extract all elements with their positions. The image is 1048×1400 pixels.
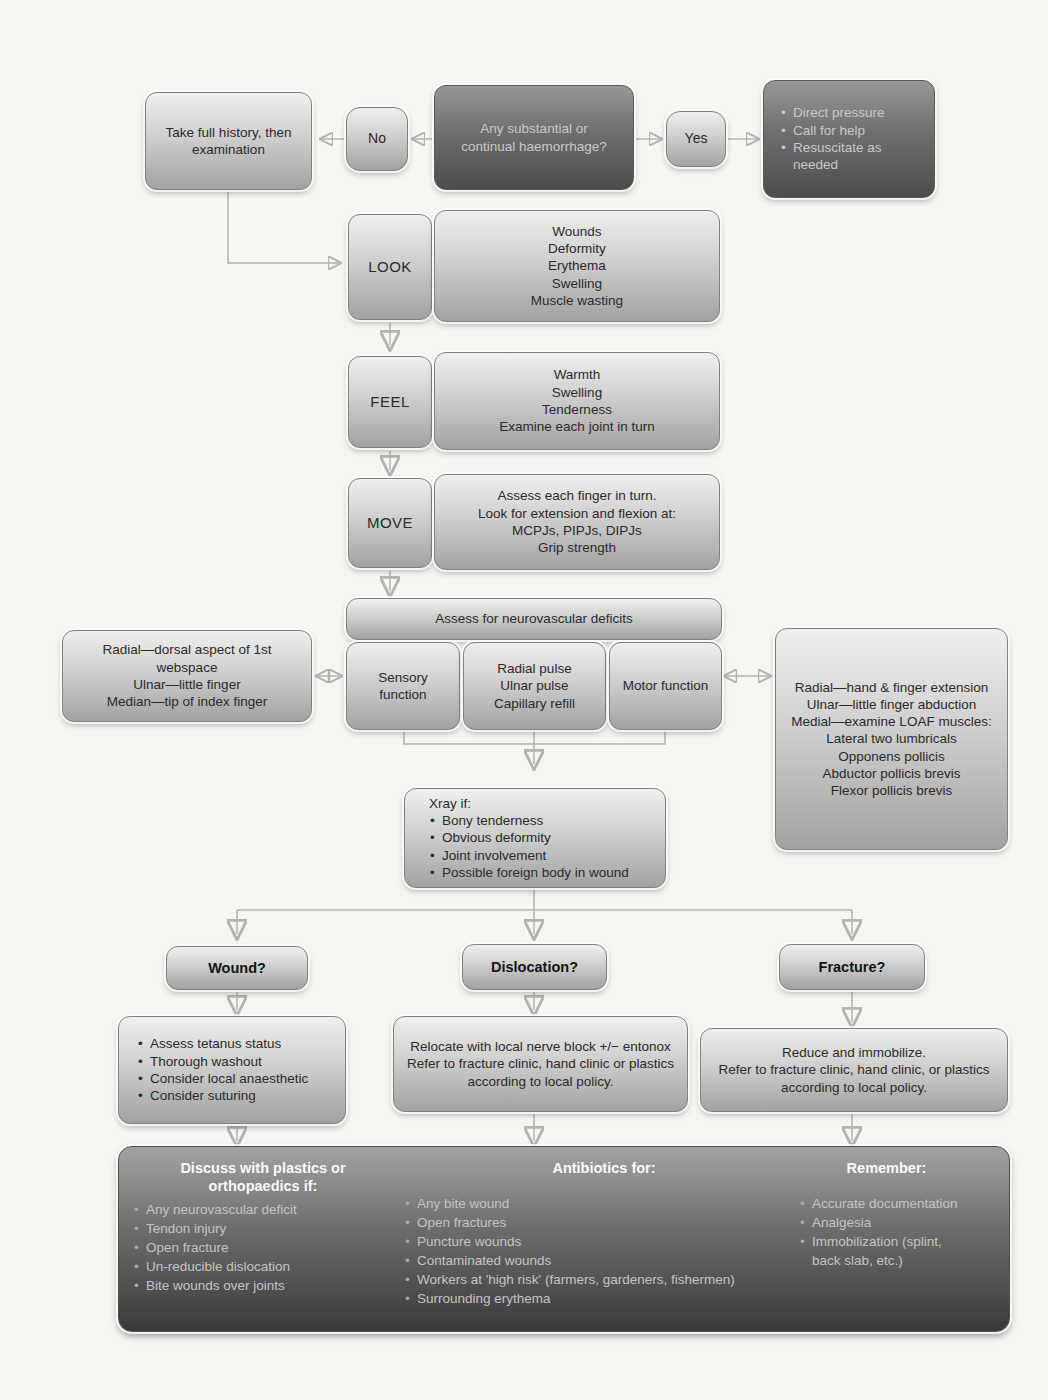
list-item: Opponens pollicis (791, 748, 991, 765)
vascular-checks-box: Radial pulseUlnar pulseCapillary refill (463, 642, 606, 730)
dislocation-header-box: Dislocation? (462, 944, 607, 990)
list-item: Erythema (531, 257, 623, 274)
antibiotics-column: Antibiotics for: Any bite woundOpen frac… (404, 1159, 804, 1308)
haemorrhage-question-box: Any substantial or continual haemorrhage… (434, 85, 634, 190)
list-item: Joint involvement (429, 847, 629, 864)
list-item: Immobilization (splint, back slab, etc.) (799, 1233, 974, 1271)
list-item: Ulnar—little finger (75, 676, 299, 693)
yes-label: Yes (685, 130, 708, 148)
wound-management-list: Assess tetanus statusThorough washoutCon… (137, 1035, 308, 1104)
no-node: No (346, 107, 408, 171)
wound-header-box: Wound? (166, 946, 308, 990)
dislocation-header-text: Dislocation? (491, 958, 578, 977)
list-item: Surrounding erythema (404, 1290, 804, 1309)
list-item: Resuscitate as needed (780, 139, 922, 174)
list-item: Warmth (499, 366, 654, 383)
list-item: Bite wounds over joints (133, 1277, 393, 1296)
wound-management-box: Assess tetanus statusThorough washoutCon… (118, 1016, 346, 1124)
xray-criteria-box: Xray if: Bony tendernessObvious deformit… (404, 788, 666, 888)
fracture-management-list: Reduce and immobilize.Refer to fracture … (713, 1044, 995, 1096)
look-label-box: LOOK (348, 214, 432, 320)
list-item: Open fractures (404, 1214, 804, 1233)
yes-node: Yes (666, 111, 726, 167)
haemorrhage-question-text: Any substantial or continual haemorrhage… (458, 120, 610, 155)
list-item: Thorough washout (137, 1053, 308, 1070)
antibiotics-header: Antibiotics for: (404, 1159, 804, 1177)
look-findings-list: WoundsDeformityErythemaSwellingMuscle wa… (531, 223, 623, 309)
xray-title: Xray if: (429, 795, 471, 812)
list-item: Flexor pollicis brevis (791, 782, 991, 799)
list-item: Wounds (531, 223, 623, 240)
vascular-checks-list: Radial pulseUlnar pulseCapillary refill (494, 660, 575, 712)
discuss-column: Discuss with plastics or orthopaedics if… (133, 1159, 393, 1296)
dislocation-management-list: Relocate with local nerve block +/− ento… (406, 1038, 675, 1090)
list-item: MCPJs, PIPJs, DIPJs (478, 522, 676, 539)
discuss-header: Discuss with plastics or orthopaedics if… (133, 1159, 393, 1195)
move-findings-list: Assess each finger in turn.Look for exte… (478, 487, 676, 556)
move-label: MOVE (367, 513, 413, 532)
list-item: Swelling (531, 275, 623, 292)
flowchart-page: Take full history, then examination No A… (0, 0, 1048, 1400)
list-item: Tenderness (499, 401, 654, 418)
list-item: Call for help (780, 122, 922, 139)
motor-function-text: Motor function (623, 677, 709, 694)
sensory-function-text: Sensory function (359, 669, 447, 704)
fracture-header-text: Fracture? (819, 958, 886, 977)
list-item: Workers at 'high risk' (farmers, gardene… (404, 1271, 804, 1290)
list-item: Refer to fracture clinic, hand clinic or… (406, 1055, 675, 1090)
list-item: Radial—hand & finger extension (791, 679, 991, 696)
wound-header-text: Wound? (208, 959, 266, 978)
feel-findings-list: WarmthSwellingTendernessExamine each joi… (499, 366, 654, 435)
neurovascular-header-box: Assess for neurovascular deficits (346, 598, 722, 640)
list-item: Look for extension and flexion at: (478, 505, 676, 522)
list-item: Refer to fracture clinic, hand clinic, o… (713, 1061, 995, 1096)
list-item: Medial—examine LOAF muscles: (791, 713, 991, 730)
list-item: Consider local anaesthetic (137, 1070, 308, 1087)
list-item: Muscle wasting (531, 292, 623, 309)
feel-label: FEEL (370, 392, 410, 411)
list-item: Un-reducible dislocation (133, 1258, 393, 1277)
list-item: Any bite wound (404, 1195, 804, 1214)
fracture-management-box: Reduce and immobilize.Refer to fracture … (700, 1028, 1008, 1112)
feel-label-box: FEEL (348, 356, 432, 448)
fracture-header-box: Fracture? (779, 944, 925, 990)
list-item: Assess each finger in turn. (478, 487, 676, 504)
list-item: Consider suturing (137, 1087, 308, 1104)
arrow-history-to-look (228, 191, 339, 263)
move-label-box: MOVE (348, 478, 432, 568)
dislocation-management-box: Relocate with local nerve block +/− ento… (393, 1016, 688, 1112)
list-item: Open fracture (133, 1239, 393, 1258)
list-item: Contaminated wounds (404, 1252, 804, 1271)
emergency-actions-list: Direct pressureCall for helpResuscitate … (780, 104, 922, 173)
move-findings-box: Assess each finger in turn.Look for exte… (434, 474, 720, 570)
look-findings-box: WoundsDeformityErythemaSwellingMuscle wa… (434, 210, 720, 322)
list-item: Swelling (499, 384, 654, 401)
list-item: Radial pulse (494, 660, 575, 677)
list-item: Accurate documentation (799, 1195, 974, 1214)
list-item: Relocate with local nerve block +/− ento… (406, 1038, 675, 1055)
list-item: Median—tip of index finger (75, 693, 299, 710)
motor-tests-list: Radial—hand & finger extensionUlnar—litt… (791, 679, 991, 800)
connector-xray-split (237, 888, 852, 910)
list-item: Grip strength (478, 539, 676, 556)
remember-list: Accurate documentationAnalgesiaImmobiliz… (799, 1195, 974, 1271)
list-item: Direct pressure (780, 104, 922, 121)
list-item: Bony tenderness (429, 812, 629, 829)
remember-header: Remember: (799, 1159, 974, 1177)
list-item: Deformity (531, 240, 623, 257)
list-item: Obvious deformity (429, 829, 629, 846)
look-label: LOOK (368, 257, 412, 276)
list-item: Examine each joint in turn (499, 418, 654, 435)
no-label: No (368, 130, 386, 148)
list-item: Ulnar pulse (494, 677, 575, 694)
list-item: Tendon injury (133, 1220, 393, 1239)
list-item: Lateral two lumbricals (791, 730, 991, 747)
sensory-territories-box: Radial—dorsal aspect of 1st webspaceUlna… (62, 630, 312, 722)
list-item: Reduce and immobilize. (713, 1044, 995, 1061)
motor-function-box: Motor function (609, 642, 722, 730)
list-item: Any neurovascular deficit (133, 1201, 393, 1220)
discuss-list: Any neurovascular deficitTendon injuryOp… (133, 1201, 393, 1295)
list-item: Assess tetanus status (137, 1035, 308, 1052)
remember-column: Remember: Accurate documentationAnalgesi… (799, 1159, 974, 1271)
list-item: Puncture wounds (404, 1233, 804, 1252)
